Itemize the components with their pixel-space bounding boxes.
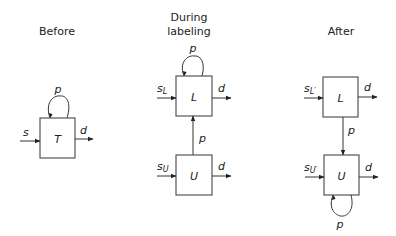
input-label-sU: sU — [157, 160, 169, 174]
box-label-U: U — [337, 170, 345, 183]
box-label-L: L — [191, 91, 197, 104]
output-label-d: d — [80, 124, 88, 137]
diagram-canvas: Before p T s d During labeling p L sL d … — [0, 0, 396, 236]
input-label-s: s — [23, 126, 29, 139]
output-label-d: d — [364, 81, 372, 94]
box-label-U: U — [190, 170, 198, 183]
input-label-sL: sL — [157, 82, 167, 96]
box-label-L: L — [337, 92, 343, 105]
loop-label-p: p — [336, 218, 344, 231]
link-label-p: p — [198, 132, 206, 145]
output-label-d: d — [218, 82, 226, 95]
panel-title-during-line1: During — [171, 11, 208, 24]
loop-label-p: p — [54, 83, 62, 96]
input-label-sL-prime: sL′ — [304, 82, 316, 96]
panel-during-labeling: During labeling p L sL d p U sU d — [157, 11, 231, 195]
loop-label-p: p — [189, 42, 197, 55]
input-label-sU-prime: sU′ — [304, 161, 318, 175]
output-label-d: d — [218, 160, 226, 173]
panel-before: Before p T s d — [20, 25, 93, 158]
link-label-p: p — [347, 124, 355, 137]
panel-title-after: After — [328, 25, 355, 38]
output-label-d: d — [365, 161, 373, 174]
panel-after: After L sL′ d p U sU′ d p — [304, 25, 378, 231]
panel-title-during-line2: labeling — [167, 25, 211, 38]
panel-title-before: Before — [39, 25, 75, 38]
